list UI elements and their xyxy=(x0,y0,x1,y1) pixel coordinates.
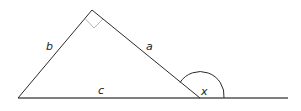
right-angle-marker xyxy=(85,19,103,29)
side-a xyxy=(92,10,200,98)
label-x: x xyxy=(200,85,208,98)
triangle-diagram: b a c x xyxy=(0,0,301,111)
label-a: a xyxy=(146,40,153,53)
label-c: c xyxy=(98,84,104,97)
label-b: b xyxy=(46,40,53,53)
side-b xyxy=(18,10,92,98)
